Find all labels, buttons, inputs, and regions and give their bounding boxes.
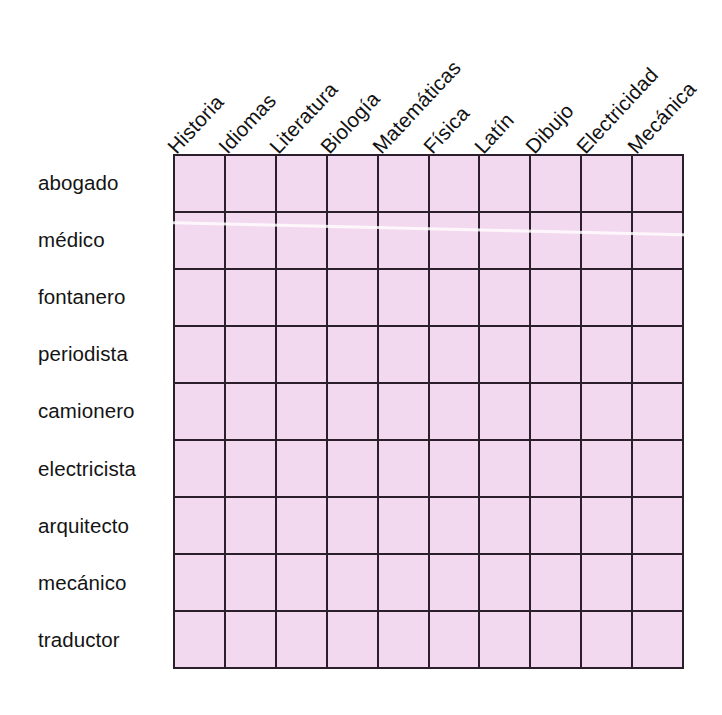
grid-cell[interactable] bbox=[430, 384, 481, 441]
grid-cell[interactable] bbox=[328, 156, 379, 213]
grid-cell[interactable] bbox=[379, 498, 430, 555]
grid-cell[interactable] bbox=[175, 270, 226, 327]
grid-cell[interactable] bbox=[582, 498, 633, 555]
grid-cell[interactable] bbox=[633, 213, 684, 270]
grid-cell[interactable] bbox=[480, 555, 531, 612]
grid-cell[interactable] bbox=[531, 327, 582, 384]
grid-cell[interactable] bbox=[531, 384, 582, 441]
grid-cell[interactable] bbox=[379, 612, 430, 669]
grid-cell[interactable] bbox=[430, 498, 481, 555]
grid-cell[interactable] bbox=[277, 327, 328, 384]
column-header-7: Latín bbox=[471, 109, 518, 157]
grid-cell[interactable] bbox=[277, 270, 328, 327]
grid-cell[interactable] bbox=[379, 156, 430, 213]
grid-cell[interactable] bbox=[328, 498, 379, 555]
grid-cell[interactable] bbox=[430, 555, 481, 612]
grid-cell[interactable] bbox=[226, 270, 277, 327]
grid-cell[interactable] bbox=[379, 384, 430, 441]
grid-cell[interactable] bbox=[277, 498, 328, 555]
grid-cell[interactable] bbox=[175, 327, 226, 384]
grid-cell[interactable] bbox=[430, 441, 481, 498]
grid-cell[interactable] bbox=[277, 555, 328, 612]
grid-cell[interactable] bbox=[633, 270, 684, 327]
grid-cell[interactable] bbox=[582, 270, 633, 327]
grid-cell[interactable] bbox=[226, 213, 277, 270]
grid-cell[interactable] bbox=[226, 498, 277, 555]
grid-cell[interactable] bbox=[480, 270, 531, 327]
grid-cell[interactable] bbox=[226, 384, 277, 441]
grid-cell[interactable] bbox=[226, 327, 277, 384]
grid-cell[interactable] bbox=[379, 441, 430, 498]
grid-cell[interactable] bbox=[277, 156, 328, 213]
grid-cell[interactable] bbox=[379, 213, 430, 270]
grid-cell[interactable] bbox=[226, 441, 277, 498]
grid-cell[interactable] bbox=[226, 612, 277, 669]
grid-cell[interactable] bbox=[582, 156, 633, 213]
grid-cell[interactable] bbox=[430, 156, 481, 213]
grid-cell[interactable] bbox=[277, 213, 328, 270]
grid-cell[interactable] bbox=[328, 213, 379, 270]
grid-cell[interactable] bbox=[633, 327, 684, 384]
grid-cell[interactable] bbox=[328, 327, 379, 384]
row-label-9: traductor bbox=[0, 612, 165, 669]
grid-cell[interactable] bbox=[531, 270, 582, 327]
grid-cell[interactable] bbox=[582, 612, 633, 669]
grid-cell[interactable] bbox=[277, 384, 328, 441]
grid-cell[interactable] bbox=[633, 612, 684, 669]
grid-cell[interactable] bbox=[582, 213, 633, 270]
answer-grid bbox=[173, 154, 684, 669]
grid-cell[interactable] bbox=[480, 612, 531, 669]
grid-cell[interactable] bbox=[531, 213, 582, 270]
row-label-4: periodista bbox=[0, 326, 165, 383]
grid-cell[interactable] bbox=[531, 555, 582, 612]
grid-cell[interactable] bbox=[633, 555, 684, 612]
row-label-column: abogadomédicofontaneroperiodistacamioner… bbox=[0, 154, 165, 669]
grid-cell[interactable] bbox=[175, 384, 226, 441]
grid-cell[interactable] bbox=[277, 441, 328, 498]
grid-cell[interactable] bbox=[175, 612, 226, 669]
grid-cell[interactable] bbox=[430, 270, 481, 327]
grid-cell[interactable] bbox=[226, 555, 277, 612]
grid-cell[interactable] bbox=[633, 384, 684, 441]
column-header-8: Dibujo bbox=[522, 100, 577, 157]
grid-cell[interactable] bbox=[328, 555, 379, 612]
grid-cell[interactable] bbox=[531, 156, 582, 213]
grid-cell[interactable] bbox=[379, 555, 430, 612]
grid-cell[interactable] bbox=[175, 441, 226, 498]
grid-cell[interactable] bbox=[633, 498, 684, 555]
grid-cell[interactable] bbox=[531, 441, 582, 498]
grid-cell[interactable] bbox=[175, 555, 226, 612]
grid-cell[interactable] bbox=[633, 156, 684, 213]
grid-cell[interactable] bbox=[582, 384, 633, 441]
grid-cell[interactable] bbox=[379, 270, 430, 327]
matching-grid-worksheet: HistoriaIdiomasLiteraturaBiologíaMatemát… bbox=[0, 0, 722, 715]
grid-cell[interactable] bbox=[328, 270, 379, 327]
grid-cell[interactable] bbox=[480, 213, 531, 270]
grid-cell[interactable] bbox=[480, 384, 531, 441]
grid-cell[interactable] bbox=[430, 612, 481, 669]
row-label-6: electricista bbox=[0, 440, 165, 497]
grid-cell[interactable] bbox=[531, 612, 582, 669]
grid-cell[interactable] bbox=[379, 327, 430, 384]
row-label-5: camionero bbox=[0, 383, 165, 440]
grid-cell[interactable] bbox=[328, 612, 379, 669]
grid-cell[interactable] bbox=[480, 498, 531, 555]
grid-cell[interactable] bbox=[175, 156, 226, 213]
grid-cell[interactable] bbox=[582, 441, 633, 498]
grid-cell[interactable] bbox=[582, 327, 633, 384]
grid-cell[interactable] bbox=[175, 213, 226, 270]
grid-cell[interactable] bbox=[480, 156, 531, 213]
grid-cell[interactable] bbox=[175, 498, 226, 555]
grid-cell[interactable] bbox=[430, 327, 481, 384]
grid-cell[interactable] bbox=[633, 441, 684, 498]
grid-cell[interactable] bbox=[277, 612, 328, 669]
grid-cell[interactable] bbox=[582, 555, 633, 612]
grid-cell[interactable] bbox=[328, 441, 379, 498]
grid-cell[interactable] bbox=[480, 327, 531, 384]
row-label-8: mecánico bbox=[0, 555, 165, 612]
grid-cell[interactable] bbox=[430, 213, 481, 270]
grid-cell[interactable] bbox=[226, 156, 277, 213]
grid-cell[interactable] bbox=[328, 384, 379, 441]
grid-cell[interactable] bbox=[480, 441, 531, 498]
grid-cell[interactable] bbox=[531, 498, 582, 555]
